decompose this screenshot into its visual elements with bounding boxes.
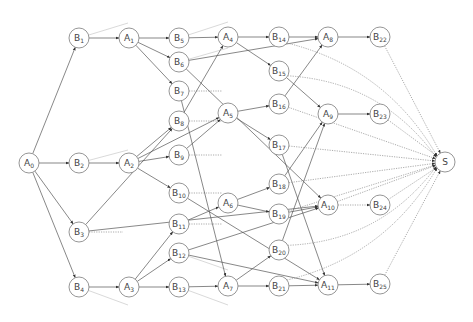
- edge-b17-to-s: [289, 146, 435, 161]
- edge-a11-to-b25: [338, 284, 370, 285]
- node-b22: B22: [370, 27, 390, 47]
- edge-b25-to-s: [385, 171, 441, 275]
- node-s: S: [435, 152, 455, 172]
- edge-b16-to-a8: [285, 45, 322, 96]
- node-b21: B21: [269, 276, 289, 296]
- node-b23: B23: [370, 104, 390, 124]
- node-b10: B10: [169, 183, 189, 203]
- edge-a3-to-b11: [135, 232, 173, 279]
- node-label: S: [442, 157, 448, 167]
- node-a2: A2: [119, 153, 139, 173]
- node-a11: A11: [318, 275, 338, 295]
- node-b2: B2: [69, 153, 89, 173]
- node-a7: A7: [218, 276, 238, 296]
- edge-a2-to-b8: [137, 127, 172, 156]
- edge-b13-to-a7: [189, 286, 218, 287]
- edge-a7-to-b20: [236, 256, 271, 280]
- edge-a5-to-b17: [236, 118, 270, 139]
- node-b1: B1: [69, 28, 89, 48]
- edge-b12-to-a11: [189, 255, 318, 283]
- node-b8: B8: [169, 111, 189, 131]
- node-b20: B20: [269, 240, 289, 260]
- edge-b6-to-a10: [186, 69, 321, 198]
- edge-b18-to-a9: [285, 122, 323, 176]
- edge-a6-to-b19: [238, 205, 269, 212]
- node-b19: B19: [269, 204, 289, 224]
- node-a3: A3: [119, 277, 139, 297]
- edge-a1-to-b6: [138, 42, 170, 57]
- edge-a0-to-b1: [33, 47, 76, 153]
- node-b6: B6: [169, 52, 189, 72]
- edge-stubs: [88, 22, 228, 305]
- edge-b11-to-a6: [188, 207, 219, 220]
- edge-stub-b6: [189, 48, 228, 59]
- edge-b8-to-a4: [184, 46, 223, 113]
- edge-b6-to-a8: [189, 39, 318, 61]
- edge-a2-to-b10: [138, 168, 171, 188]
- edge-b21-to-a11: [289, 285, 318, 286]
- node-b15: B15: [269, 61, 289, 81]
- node-a4: A4: [218, 27, 238, 47]
- edge-b16-to-s: [288, 107, 435, 158]
- directed-graph: A0B1B2B3B4A1A2A3B5B6B7B8B9B10B11B12B13A4…: [0, 0, 473, 322]
- edge-a0-to-b3: [35, 171, 73, 224]
- node-b5: B5: [169, 28, 189, 48]
- edge-a6-to-b18: [237, 187, 269, 199]
- node-b25: B25: [370, 274, 390, 294]
- edge-a5-to-b16: [238, 106, 269, 112]
- edge-b18-to-s: [289, 163, 435, 182]
- edge-a1-to-b7: [136, 45, 172, 83]
- node-a0: A0: [19, 153, 39, 173]
- edge-b5-to-a4: [189, 37, 218, 38]
- node-b12: B12: [169, 243, 189, 263]
- edges: [33, 37, 441, 287]
- node-a6: A6: [218, 193, 238, 213]
- edge-b21-to-s: [287, 168, 437, 280]
- edge-b12-to-a10: [189, 208, 319, 250]
- node-a10: A10: [318, 195, 338, 215]
- node-b16: B16: [269, 94, 289, 114]
- node-b3: B3: [69, 222, 89, 242]
- node-a1: A1: [119, 28, 139, 48]
- edge-b15-to-s: [288, 76, 436, 157]
- node-b7: B7: [169, 81, 189, 101]
- edge-a4-to-b15: [236, 43, 270, 66]
- edge-b9-to-a5: [187, 120, 221, 149]
- nodes: A0B1B2B3B4A1A2A3B5B6B7B8B9B10B11B12B13A4…: [19, 27, 455, 297]
- edge-b14-to-s: [287, 43, 437, 156]
- node-b17: B17: [269, 135, 289, 155]
- node-b24: B24: [370, 195, 390, 215]
- node-b9: B9: [169, 145, 189, 165]
- edge-b23-to-s: [388, 120, 437, 156]
- node-a9: A9: [318, 104, 338, 124]
- edge-b22-to-s: [385, 46, 441, 153]
- node-b13: B13: [169, 277, 189, 297]
- node-b4: B4: [69, 277, 89, 297]
- edge-a10-to-s: [337, 165, 435, 201]
- edge-a0-to-b4: [33, 172, 76, 277]
- edge-b3-to-b8: [86, 128, 173, 224]
- node-b18: B18: [269, 174, 289, 194]
- edge-b15-to-a9: [287, 78, 321, 108]
- node-a5: A5: [218, 103, 238, 123]
- node-b11: B11: [169, 214, 189, 234]
- node-a8: A8: [318, 27, 338, 47]
- node-b14: B14: [269, 27, 289, 47]
